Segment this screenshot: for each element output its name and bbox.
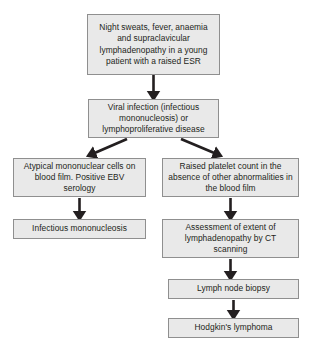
node-biopsy: Lymph node biopsy [168, 279, 299, 299]
node-presentation: Night sweats, fever, anaemia and supracl… [87, 14, 220, 75]
node-differential-label: Viral infection (infectious mononucleosi… [93, 102, 214, 136]
node-left-finding: Atypical mononuclear cells on blood film… [13, 158, 146, 197]
edge-differential-to-left-finding [90, 139, 127, 155]
node-left-finding-label: Atypical mononuclear cells on blood film… [18, 161, 141, 195]
node-final-diagnosis-label: Hodgkin's lymphoma [173, 322, 294, 333]
node-biopsy-label: Lymph node biopsy [173, 283, 294, 294]
node-differential: Viral infection (infectious mononucleosi… [88, 99, 219, 138]
node-presentation-label: Night sweats, fever, anaemia and supracl… [92, 22, 215, 67]
node-ct-assessment-label: Assessment of extent of lymphadenopathy … [167, 222, 294, 256]
node-right-finding-label: Raised platelet count in the absence of … [167, 161, 294, 195]
node-ct-assessment: Assessment of extent of lymphadenopathy … [162, 219, 299, 258]
node-right-finding: Raised platelet count in the absence of … [162, 158, 299, 197]
edge-differential-to-right-finding [181, 139, 219, 155]
node-final-diagnosis: Hodgkin's lymphoma [168, 318, 299, 338]
node-left-diagnosis: Infectious mononucleosis [13, 219, 146, 239]
node-left-diagnosis-label: Infectious mononucleosis [18, 223, 141, 234]
flowchart-diagram: Night sweats, fever, anaemia and supracl… [0, 0, 312, 349]
